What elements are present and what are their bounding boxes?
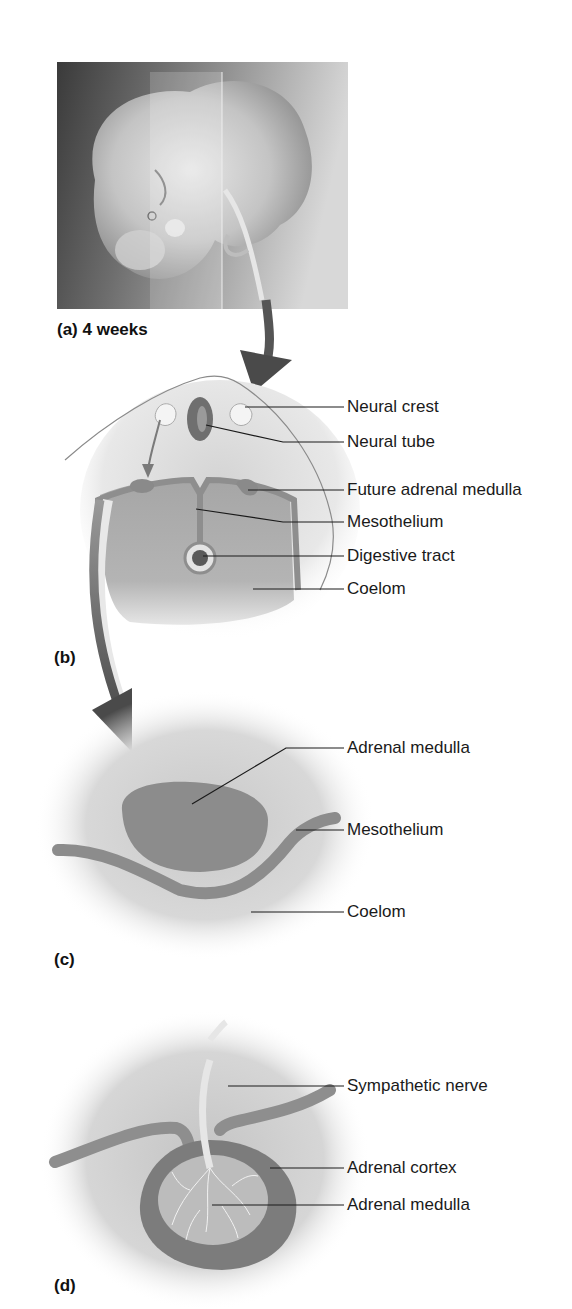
panel-c-label: (c) — [54, 950, 75, 970]
callout-neural-crest: Neural crest — [347, 397, 439, 417]
callout-coelom-b: Coelom — [347, 579, 406, 599]
figure-graphics — [0, 0, 572, 1309]
callout-adrenal-medulla-d: Adrenal medulla — [347, 1195, 470, 1215]
panel-c-diagram — [35, 690, 375, 960]
callout-mesothelium-b: Mesothelium — [347, 512, 443, 532]
panel-d-diagram — [40, 1010, 370, 1309]
callout-adrenal-cortex: Adrenal cortex — [347, 1158, 457, 1178]
panel-d-label: (d) — [54, 1276, 76, 1296]
arrow-a-to-b — [240, 300, 292, 392]
callout-coelom-c: Coelom — [347, 902, 406, 922]
callout-sympathetic-nerve: Sympathetic nerve — [347, 1076, 488, 1096]
callout-future-adrenal-medulla: Future adrenal medulla — [347, 480, 522, 500]
callout-neural-tube: Neural tube — [347, 432, 435, 452]
panel-a-label: (a) 4 weeks — [57, 320, 148, 340]
panel-a-photo — [57, 62, 348, 309]
callout-adrenal-medulla-c: Adrenal medulla — [347, 738, 470, 758]
callout-digestive-tract: Digestive tract — [347, 546, 455, 566]
panel-b-label: (b) — [54, 648, 76, 668]
callout-mesothelium-c: Mesothelium — [347, 820, 443, 840]
